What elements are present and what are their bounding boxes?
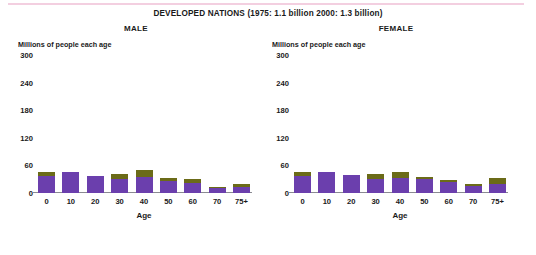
panel-male: MALE Millions of people each age 300 240…	[8, 24, 264, 255]
xlabel-male-40: 40	[136, 197, 153, 206]
top-rule-decoration	[8, 3, 524, 5]
bar-segment-1975	[465, 186, 482, 193]
bar-female-10[interactable]	[318, 55, 335, 193]
bar-segment-1975	[160, 181, 177, 193]
xlabel-male-75plus: 75+	[233, 197, 250, 206]
panel-female: FEMALE Millions of people each age 300 2…	[268, 24, 524, 255]
x-axis-title-female: Age	[294, 211, 506, 220]
bar-female-40[interactable]	[392, 55, 409, 193]
ytick-60-male: 60	[25, 161, 33, 170]
ytick-240-male: 240	[20, 78, 33, 87]
bar-group-female	[294, 55, 506, 193]
panel-title-female: FEMALE	[268, 24, 524, 33]
ytick-300-male: 300	[20, 51, 33, 60]
bar-female-60[interactable]	[440, 55, 457, 193]
bar-segment-1975	[184, 183, 201, 193]
xlabel-female-40: 40	[392, 197, 409, 206]
page-title: DEVELOPED NATIONS (1975: 1.1 billion 200…	[0, 9, 536, 18]
bar-female-0[interactable]	[294, 55, 311, 193]
bar-female-50[interactable]	[416, 55, 433, 193]
bar-male-50[interactable]	[160, 55, 177, 193]
bar-segment-1975	[440, 182, 457, 193]
bar-male-30[interactable]	[111, 55, 128, 193]
bar-male-0[interactable]	[38, 55, 55, 193]
bar-female-20[interactable]	[343, 55, 360, 193]
bar-female-75plus[interactable]	[489, 55, 506, 193]
x-axis-title-male: Age	[38, 211, 250, 220]
bar-segment-1975	[209, 188, 226, 193]
plot-area-female: 300 240 180 120 60 0	[294, 55, 506, 193]
xlabel-female-0: 0	[294, 197, 311, 206]
bar-segment-1975	[136, 177, 153, 193]
bar-segment-1975	[62, 172, 79, 193]
xlabel-female-20: 20	[343, 197, 360, 206]
bar-male-10[interactable]	[62, 55, 79, 193]
bar-female-30[interactable]	[367, 55, 384, 193]
plot-area-male: 300 240 180 120 60 0	[38, 55, 250, 193]
ytick-0-female: 0	[285, 189, 289, 198]
xlabel-female-30: 30	[367, 197, 384, 206]
ytick-120-male: 120	[20, 133, 33, 142]
ytick-60-female: 60	[281, 161, 289, 170]
y-axis-label-female: Millions of people each age	[272, 40, 365, 49]
x-axis-labels-male: 0 10 20 30 40 50 60 70 75+	[38, 197, 250, 206]
bar-segment-1975	[343, 175, 360, 193]
bar-segment-1975	[111, 179, 128, 193]
xlabel-male-50: 50	[160, 197, 177, 206]
xlabel-female-75plus: 75+	[489, 197, 506, 206]
xlabel-male-0: 0	[38, 197, 55, 206]
ytick-120-female: 120	[276, 133, 289, 142]
y-axis-label-male: Millions of people each age	[18, 40, 111, 49]
bar-group-male	[38, 55, 250, 193]
xlabel-male-60: 60	[184, 197, 201, 206]
xlabel-female-70: 70	[465, 197, 482, 206]
bar-female-70[interactable]	[465, 55, 482, 193]
panel-title-male: MALE	[8, 24, 264, 33]
xlabel-female-60: 60	[440, 197, 457, 206]
x-axis-labels-female: 0 10 20 30 40 50 60 70 75+	[294, 197, 506, 206]
bar-segment-1975	[294, 176, 311, 193]
xlabel-male-70: 70	[209, 197, 226, 206]
xlabel-male-10: 10	[62, 197, 79, 206]
xlabel-male-30: 30	[111, 197, 128, 206]
bar-segment-1975	[392, 178, 409, 193]
bar-segment-1975	[367, 179, 384, 193]
bar-segment-1975	[87, 176, 104, 193]
chart-page: DEVELOPED NATIONS (1975: 1.1 billion 200…	[0, 0, 536, 255]
xlabel-male-20: 20	[87, 197, 104, 206]
xlabel-female-50: 50	[416, 197, 433, 206]
bar-male-40[interactable]	[136, 55, 153, 193]
bar-segment-1975	[318, 172, 335, 193]
bar-segment-2000	[136, 170, 153, 177]
xlabel-female-10: 10	[318, 197, 335, 206]
bar-male-70[interactable]	[209, 55, 226, 193]
bar-segment-1975	[416, 179, 433, 193]
ytick-240-female: 240	[276, 78, 289, 87]
ytick-180-male: 180	[20, 106, 33, 115]
ytick-0-male: 0	[29, 189, 33, 198]
chart-panels: MALE Millions of people each age 300 240…	[0, 24, 536, 255]
bar-segment-1975	[233, 187, 250, 193]
bar-segment-1975	[489, 184, 506, 193]
ytick-180-female: 180	[276, 106, 289, 115]
bar-male-75plus[interactable]	[233, 55, 250, 193]
bar-male-20[interactable]	[87, 55, 104, 193]
bar-male-60[interactable]	[184, 55, 201, 193]
bar-segment-1975	[38, 176, 55, 193]
ytick-300-female: 300	[276, 51, 289, 60]
